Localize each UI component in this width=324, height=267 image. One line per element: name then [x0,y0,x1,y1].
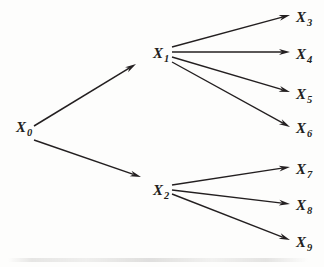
edge-line-x2-x9 [172,194,283,237]
node-x6: X6 [295,120,313,139]
node-label-x8: X [295,197,307,213]
edge-line-x1-x3 [172,17,282,47]
node-x0: X0 [15,119,33,138]
edge-line-x1-x5 [172,57,282,90]
node-x1: X1 [152,45,169,64]
edge-x1-x6 [172,62,290,127]
node-label-x1: X [152,45,164,61]
node-subscript-x9: 9 [307,242,313,253]
edge-x2-x7 [172,166,290,185]
edge-line-x0-x1 [34,68,129,126]
node-x9: X9 [295,234,313,253]
node-subscript-x4: 4 [306,54,312,65]
node-subscript-x8: 8 [307,205,313,216]
node-label-layer: X0X1X2X3X4X5X6X7X8X9 [15,9,313,253]
node-label-x4: X [295,46,307,62]
node-label-x6: X [295,120,307,136]
arrowhead-x1-x6 [279,119,290,127]
node-subscript-x7: 7 [307,169,313,180]
node-x4: X4 [295,46,312,65]
node-subscript-x6: 6 [307,128,313,139]
node-x5: X5 [295,86,312,105]
node-x2: X2 [152,182,170,201]
tree-diagram-canvas: X0X1X2X3X4X5X6X7X8X9 [0,0,324,267]
edge-x0-x1 [34,64,136,126]
edge-x2-x9 [172,194,290,240]
tree-diagram: X0X1X2X3X4X5X6X7X8X9 [0,0,324,267]
node-label-x7: X [295,161,307,177]
node-subscript-x0: 0 [27,127,33,138]
node-subscript-x2: 2 [163,190,170,201]
node-label-x5: X [295,86,307,102]
edge-x1-x5 [172,57,290,92]
edge-x1-x3 [172,15,290,47]
node-x7: X7 [295,161,313,180]
edge-line-x1-x6 [172,62,283,123]
node-x3: X3 [295,9,312,28]
edge-line-x0-x2 [34,140,133,174]
edge-x0-x2 [34,140,141,177]
edge-x2-x8 [172,190,290,206]
node-subscript-x5: 5 [307,94,312,105]
node-subscript-x1: 1 [164,53,169,64]
node-subscript-x3: 3 [306,17,312,28]
node-label-x9: X [295,234,307,250]
edge-line-x2-x7 [172,168,282,185]
edge-x1-x4 [172,49,290,55]
node-x8: X8 [295,197,313,216]
node-label-x3: X [295,9,307,25]
node-label-x0: X [15,119,27,135]
arrowhead-x0-x1 [125,64,136,72]
node-label-x2: X [152,182,164,198]
